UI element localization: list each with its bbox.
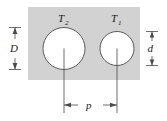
hole-large-label-subscript: 2: [65, 19, 69, 27]
dimension-p-label: p: [85, 99, 92, 111]
dimension-p-group: p: [64, 99, 117, 111]
dimension-D-group: D: [9, 28, 21, 70]
dimension-D-arrow-up: [13, 28, 18, 35]
dimension-p-arrow-left: [64, 103, 71, 108]
dimension-d-arrow-down: [150, 60, 155, 66]
dimension-d-label: d: [148, 42, 154, 54]
hole-small-label-subscript: 1: [118, 19, 122, 27]
dimension-D-label: D: [9, 42, 18, 54]
figure-container: T 2 T 1 D d: [0, 0, 167, 121]
cross-section-diagram: T 2 T 1 D d: [0, 0, 167, 121]
dimension-d-group: d: [146, 32, 158, 66]
dimension-p-arrow-right: [110, 103, 117, 108]
dimension-d-arrow-up: [150, 32, 155, 38]
hole-large-label: T: [58, 12, 65, 24]
hole-small-label: T: [111, 12, 118, 24]
dimension-D-arrow-down: [13, 63, 18, 70]
